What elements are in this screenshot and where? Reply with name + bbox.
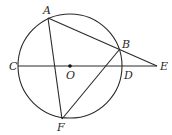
label-f: F [56, 121, 65, 134]
label-b: B [121, 38, 130, 51]
segment-af [48, 18, 62, 119]
label-e: E [159, 60, 168, 73]
label-d: D [123, 69, 133, 82]
geometry-diagram: A B C D E F O [0, 0, 172, 135]
center-point-o [68, 64, 72, 68]
label-o: O [66, 69, 75, 82]
label-c: C [9, 60, 18, 73]
segment-fb [62, 50, 119, 119]
label-a: A [42, 4, 51, 17]
diagram-canvas: A B C D E F O [0, 0, 172, 135]
